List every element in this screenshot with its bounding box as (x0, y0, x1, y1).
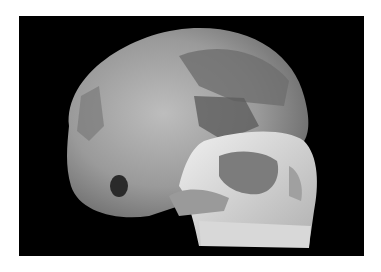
skull-photo (19, 16, 364, 256)
ear-opening (110, 175, 128, 197)
photo-frame (19, 16, 364, 256)
